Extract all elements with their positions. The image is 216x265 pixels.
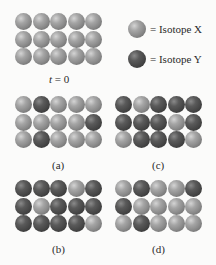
- label-t0: t = 0: [49, 73, 69, 85]
- isotope-x-sphere-icon: [168, 180, 185, 197]
- isotope-y-sphere-icon: [33, 215, 50, 232]
- isotope-x-sphere-icon: [85, 215, 102, 232]
- isotope-y-sphere-icon: [115, 114, 132, 131]
- isotope-x-sphere-icon: [85, 131, 102, 148]
- isotope-x-sphere-icon: [185, 215, 202, 232]
- isotope-x-sphere-icon: [50, 48, 67, 65]
- isotope-x-sphere-icon: [68, 114, 85, 131]
- isotope-x-sphere-icon: [68, 96, 85, 113]
- isotope-x-sphere-icon: [185, 131, 202, 148]
- isotope-y-sphere-icon: [133, 131, 150, 148]
- isotope-x-sphere-icon: [150, 180, 167, 197]
- legend-isotope-y: = Isotope Y: [128, 50, 202, 68]
- isotope-x-sphere-icon: [133, 198, 150, 215]
- isotope-y-sphere-icon: [185, 96, 202, 113]
- isotope-y-sphere-icon: [115, 96, 132, 113]
- isotope-x-sphere-icon: [15, 131, 32, 148]
- isotope-x-sphere-icon: [68, 31, 85, 48]
- isotope-y-sphere-icon: [15, 215, 32, 232]
- isotope-x-sphere-icon: [85, 31, 102, 48]
- isotope-y-sphere-icon: [15, 180, 32, 197]
- isotope-y-sphere-icon: [50, 198, 67, 215]
- isotope-x-sphere-icon: [50, 131, 67, 148]
- isotope-x-sphere-icon: [50, 13, 67, 30]
- isotope-x-sphere-icon: [33, 198, 50, 215]
- grid-d: [115, 180, 203, 233]
- isotope-x-sphere-icon: [115, 215, 132, 232]
- label-b: (b): [52, 243, 65, 255]
- label-t0-num: 0: [64, 73, 70, 85]
- isotope-x-sphere-icon: [128, 20, 146, 38]
- isotope-y-sphere-icon: [150, 131, 167, 148]
- isotope-y-sphere-icon: [85, 180, 102, 197]
- isotope-x-sphere-icon: [115, 180, 132, 197]
- grid-b: [15, 180, 103, 233]
- isotope-y-sphere-icon: [85, 114, 102, 131]
- isotope-x-sphere-icon: [15, 48, 32, 65]
- isotope-y-sphere-icon: [168, 131, 185, 148]
- isotope-x-sphere-icon: [150, 198, 167, 215]
- isotope-x-sphere-icon: [168, 198, 185, 215]
- isotope-x-sphere-icon: [33, 13, 50, 30]
- label-t0-eq: =: [52, 73, 64, 85]
- isotope-x-sphere-icon: [68, 131, 85, 148]
- isotope-y-sphere-icon: [33, 96, 50, 113]
- label-d: (d): [152, 243, 165, 255]
- isotope-y-sphere-icon: [185, 114, 202, 131]
- isotope-x-sphere-icon: [185, 198, 202, 215]
- legend-isotope-x: = Isotope X: [128, 20, 202, 38]
- isotope-y-sphere-icon: [150, 114, 167, 131]
- isotope-x-sphere-icon: [15, 114, 32, 131]
- grid-a: [15, 96, 103, 149]
- isotope-y-sphere-icon: [85, 198, 102, 215]
- isotope-y-sphere-icon: [33, 180, 50, 197]
- isotope-y-sphere-icon: [128, 50, 146, 68]
- isotope-x-sphere-icon: [33, 31, 50, 48]
- isotope-y-sphere-icon: [133, 180, 150, 197]
- isotope-y-sphere-icon: [133, 114, 150, 131]
- isotope-x-sphere-icon: [68, 180, 85, 197]
- isotope-y-sphere-icon: [50, 215, 67, 232]
- isotope-y-sphere-icon: [50, 180, 67, 197]
- grid-c: [115, 96, 203, 149]
- isotope-x-sphere-icon: [15, 13, 32, 30]
- isotope-y-sphere-icon: [115, 198, 132, 215]
- isotope-y-sphere-icon: [185, 180, 202, 197]
- isotope-x-sphere-icon: [50, 31, 67, 48]
- isotope-x-sphere-icon: [168, 215, 185, 232]
- legend-isotope-x-label: = Isotope X: [150, 23, 202, 35]
- isotope-x-sphere-icon: [85, 96, 102, 113]
- isotope-x-sphere-icon: [68, 48, 85, 65]
- isotope-x-sphere-icon: [168, 114, 185, 131]
- isotope-x-sphere-icon: [33, 48, 50, 65]
- isotope-y-sphere-icon: [168, 96, 185, 113]
- isotope-x-sphere-icon: [115, 131, 132, 148]
- isotope-x-sphere-icon: [68, 13, 85, 30]
- legend-isotope-y-label: = Isotope Y: [150, 53, 202, 65]
- isotope-y-sphere-icon: [150, 96, 167, 113]
- isotope-y-sphere-icon: [68, 198, 85, 215]
- isotope-y-sphere-icon: [133, 215, 150, 232]
- isotope-x-sphere-icon: [85, 48, 102, 65]
- isotope-x-sphere-icon: [85, 13, 102, 30]
- label-a: (a): [52, 159, 64, 171]
- isotope-x-sphere-icon: [15, 96, 32, 113]
- isotope-x-sphere-icon: [133, 96, 150, 113]
- isotope-x-sphere-icon: [50, 96, 67, 113]
- isotope-x-sphere-icon: [50, 114, 67, 131]
- label-c: (c): [152, 159, 164, 171]
- grid-t0: [15, 13, 103, 66]
- isotope-x-sphere-icon: [15, 31, 32, 48]
- isotope-x-sphere-icon: [150, 215, 167, 232]
- isotope-y-sphere-icon: [68, 215, 85, 232]
- isotope-y-sphere-icon: [15, 198, 32, 215]
- isotope-x-sphere-icon: [33, 114, 50, 131]
- isotope-y-sphere-icon: [33, 131, 50, 148]
